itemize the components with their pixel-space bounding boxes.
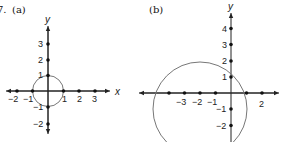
- y-tick-label: −2: [216, 121, 226, 131]
- y-tick-label: −2: [33, 119, 43, 129]
- tick-dot: [93, 89, 97, 93]
- y-tick-label: 3: [222, 40, 227, 50]
- tick-dot: [229, 59, 233, 63]
- tick-dot: [214, 91, 218, 95]
- tick-dot: [46, 122, 50, 126]
- x-tick-label: −3: [176, 97, 186, 107]
- tick-dot: [77, 89, 81, 93]
- tick-dot: [229, 107, 233, 111]
- x-tick-label: −1: [23, 94, 33, 104]
- x-tick-label: 2: [259, 99, 264, 109]
- panel-a-x-label: x: [114, 86, 121, 97]
- y-tick-label: 2: [38, 55, 43, 65]
- x-tick-label: 1: [62, 94, 67, 104]
- tick-dot: [62, 89, 66, 93]
- tick-dot: [46, 74, 50, 78]
- tick-dot: [15, 89, 19, 93]
- y-tick-label: 2: [222, 56, 227, 66]
- x-tick-label: −2: [8, 94, 18, 104]
- tick-dot: [46, 58, 50, 62]
- x-tick-label: 2: [77, 94, 82, 104]
- panel-a-y-label: y: [44, 14, 51, 25]
- tick-dot: [31, 89, 35, 93]
- x-tick-label: −2: [192, 97, 202, 107]
- tick-dot: [46, 42, 50, 46]
- tick-dot: [229, 124, 233, 128]
- panel-a-label: (a): [12, 4, 26, 15]
- tick-dot: [167, 91, 171, 95]
- y-tick-label: −1: [216, 104, 226, 114]
- x-tick-label: 3: [92, 94, 97, 104]
- tick-dot: [183, 91, 187, 95]
- tick-dot: [198, 91, 202, 95]
- tick-dot: [229, 27, 233, 31]
- problem-number: 7.: [0, 4, 7, 15]
- tick-dot: [229, 43, 233, 47]
- y-tick-label: 1: [38, 70, 43, 80]
- figure: 7. (a) x y −2 −1 1 2 3 3 2 1: [0, 0, 282, 142]
- panel-b-graph: y −3 −2 −1 2 4 3 2 1 −1 −2: [139, 1, 279, 142]
- panel-b-label: (b): [149, 4, 163, 15]
- tick-dot: [260, 91, 264, 95]
- tick-dot: [245, 91, 249, 95]
- y-tick-label: 4: [222, 24, 227, 34]
- y-tick-label: −1: [33, 102, 43, 112]
- y-tick-label: 1: [222, 72, 227, 82]
- y-tick-label: 3: [38, 39, 43, 49]
- panel-a-graph: x y −2 −1 1 2 3 3 2 1 −1 −2: [6, 14, 121, 134]
- tick-dot: [229, 75, 233, 79]
- panel-b-y-label: y: [227, 1, 234, 12]
- tick-dot: [46, 105, 50, 109]
